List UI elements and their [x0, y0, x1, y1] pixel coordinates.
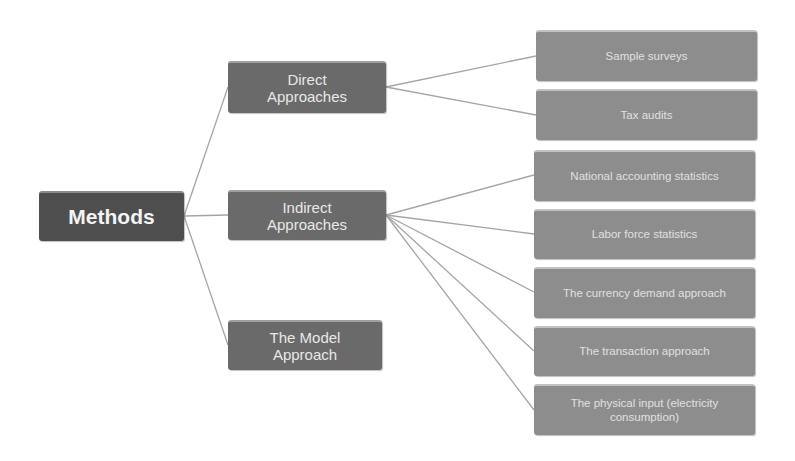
connector-direct-tax	[386, 87, 536, 115]
leaf-node-national-accounting: National accounting statistics	[534, 150, 755, 201]
branch-label: The Model Approach	[255, 329, 355, 364]
root-label: Methods	[68, 205, 154, 229]
leaf-label: Sample surveys	[606, 50, 688, 63]
branch-node-direct: Direct Approaches	[228, 61, 386, 113]
leaf-label: Labor force statistics	[592, 228, 697, 241]
connector-indirect-labor	[386, 215, 534, 234]
leaf-label: The transaction approach	[579, 345, 709, 358]
connector-root-model	[184, 216, 228, 345]
leaf-node-transaction: The transaction approach	[534, 326, 755, 376]
leaf-node-currency-demand: The currency demand approach	[534, 267, 755, 318]
leaf-node-physical-input: The physical input (electricity consumpt…	[534, 384, 755, 435]
leaf-node-tax-audits: Tax audits	[536, 89, 757, 140]
connector-indirect-national	[386, 175, 534, 215]
leaf-node-labor-force: Labor force statistics	[534, 209, 755, 259]
connector-indirect-transaction	[386, 215, 534, 351]
branch-label: Direct Approaches	[257, 71, 357, 106]
connector-root-indirect	[184, 215, 228, 216]
branch-label: Indirect Approaches	[257, 199, 357, 234]
root-node-methods: Methods	[39, 191, 184, 241]
leaf-node-sample-surveys: Sample surveys	[536, 30, 757, 81]
leaf-label: The currency demand approach	[563, 287, 726, 300]
connector-indirect-physical	[386, 215, 534, 410]
branch-node-model: The Model Approach	[228, 320, 382, 370]
connector-root-direct	[184, 87, 228, 216]
connector-direct-sample	[386, 56, 536, 87]
branch-node-indirect: Indirect Approaches	[228, 190, 386, 240]
leaf-label: National accounting statistics	[570, 170, 718, 183]
connector-indirect-currency	[386, 215, 534, 292]
leaf-label: Tax audits	[621, 109, 673, 122]
leaf-label: The physical input (electricity consumpt…	[550, 397, 740, 423]
